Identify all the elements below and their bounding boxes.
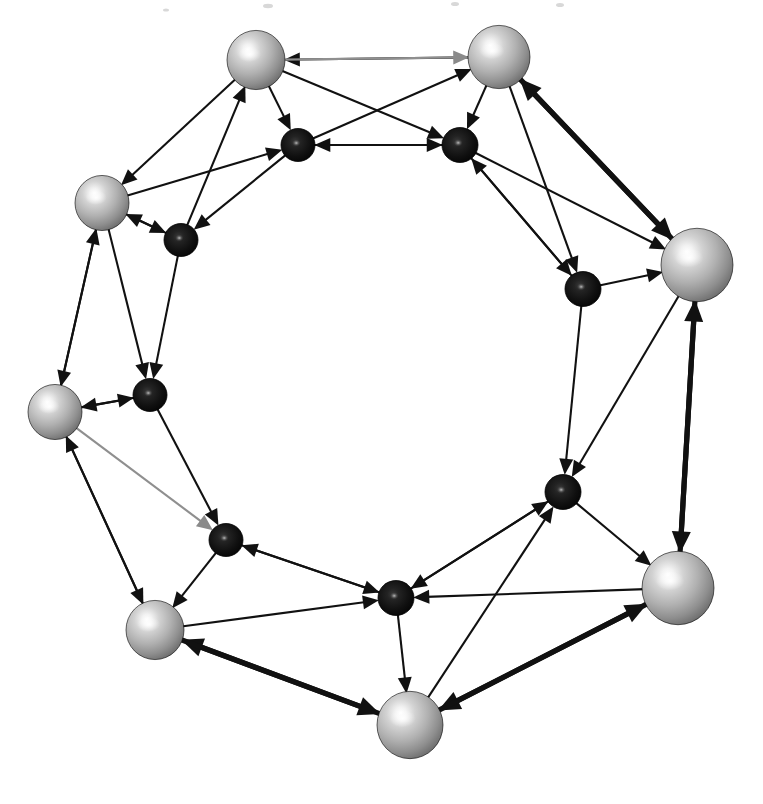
node-specular-highlight <box>480 42 505 59</box>
node-specular-highlight <box>38 399 60 414</box>
node-specular-highlight <box>557 486 566 493</box>
scan-speck <box>556 3 564 7</box>
graph-node-inner[interactable] <box>133 379 167 412</box>
node-specular-highlight <box>390 710 416 728</box>
graph-node-inner[interactable] <box>164 224 198 257</box>
graph-node-outer[interactable] <box>227 30 285 89</box>
scan-speck <box>163 8 169 11</box>
scan-speck <box>451 2 459 6</box>
graph-node-inner[interactable] <box>281 129 315 162</box>
graph-node-inner[interactable] <box>545 475 581 510</box>
graph-node-outer[interactable] <box>377 691 443 758</box>
graph-node-inner[interactable] <box>565 272 601 307</box>
graph-node-inner[interactable] <box>442 128 478 163</box>
node-specular-highlight <box>292 140 300 147</box>
node-specular-highlight <box>220 535 228 542</box>
node-specular-highlight <box>454 139 463 146</box>
graph-node-outer[interactable] <box>75 175 129 230</box>
graph-node-outer[interactable] <box>661 228 733 301</box>
graph-node-outer[interactable] <box>126 600 184 659</box>
graph-node-outer[interactable] <box>642 551 714 624</box>
node-specular-highlight <box>390 592 399 599</box>
graph-diagram <box>0 0 763 804</box>
node-specular-highlight <box>137 616 160 632</box>
node-specular-highlight <box>577 283 586 290</box>
graph-node-outer[interactable] <box>468 25 530 88</box>
node-specular-highlight <box>144 390 152 397</box>
scan-speck <box>263 4 273 8</box>
graph-node-inner[interactable] <box>378 581 414 616</box>
node-specular-highlight <box>656 571 685 590</box>
figure-canvas <box>0 0 763 804</box>
node-specular-highlight <box>175 235 183 242</box>
graph-node-inner[interactable] <box>209 524 243 557</box>
graph-node-outer[interactable] <box>28 384 82 439</box>
node-specular-highlight <box>675 248 704 267</box>
node-specular-highlight <box>85 190 107 205</box>
node-specular-highlight <box>238 46 261 62</box>
